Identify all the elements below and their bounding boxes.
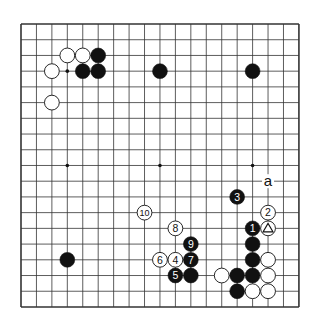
white-stone-move-8: 8: [168, 221, 183, 236]
move-number: 2: [265, 206, 271, 218]
black-stone: [245, 64, 260, 79]
white-stone: [44, 95, 59, 110]
black-stone: [230, 284, 245, 299]
move-number: 1: [250, 222, 256, 234]
black-stone: [60, 252, 75, 267]
black-stone: [183, 268, 198, 283]
move-number: 4: [172, 254, 178, 266]
star-point: [158, 164, 162, 168]
point-label-a: a: [264, 172, 273, 189]
white-stone: [75, 48, 90, 63]
black-stone: [230, 268, 245, 283]
white-stone: [261, 252, 276, 267]
black-stone-move-9: 9: [183, 237, 198, 252]
move-number: 10: [140, 208, 150, 218]
white-stone-move-4: 4: [168, 252, 183, 267]
move-number: 3: [234, 191, 240, 203]
black-stone: [153, 64, 168, 79]
star-point: [251, 164, 255, 168]
star-point: [66, 164, 70, 168]
letter-labels: a: [262, 172, 274, 189]
black-stone: [75, 64, 90, 79]
white-stone-move-2: 2: [261, 205, 276, 220]
black-stone-move-5: 5: [168, 268, 183, 283]
move-number: 8: [172, 222, 178, 234]
white-stone-move-6: 6: [153, 252, 168, 267]
white-stone: [60, 48, 75, 63]
go-board: a 32110896475: [0, 0, 318, 329]
white-stone: [214, 268, 229, 283]
black-stone-move-1: 1: [245, 221, 260, 236]
white-stone: [44, 64, 59, 79]
white-stone: [245, 284, 260, 299]
black-stone-move-3: 3: [230, 190, 245, 205]
move-number: 6: [157, 254, 163, 266]
star-point: [66, 69, 70, 73]
black-stone: [91, 64, 106, 79]
move-number: 5: [172, 269, 178, 281]
white-stone: [261, 221, 276, 236]
move-number: 7: [188, 254, 194, 266]
white-stone: [261, 268, 276, 283]
black-stone: [91, 48, 106, 63]
white-stone-move-10: 10: [137, 205, 152, 220]
black-stone: [245, 237, 260, 252]
white-stone: [261, 284, 276, 299]
black-stone-move-7: 7: [183, 252, 198, 267]
black-stone: [245, 268, 260, 283]
black-stone: [245, 252, 260, 267]
move-number: 9: [188, 238, 194, 250]
